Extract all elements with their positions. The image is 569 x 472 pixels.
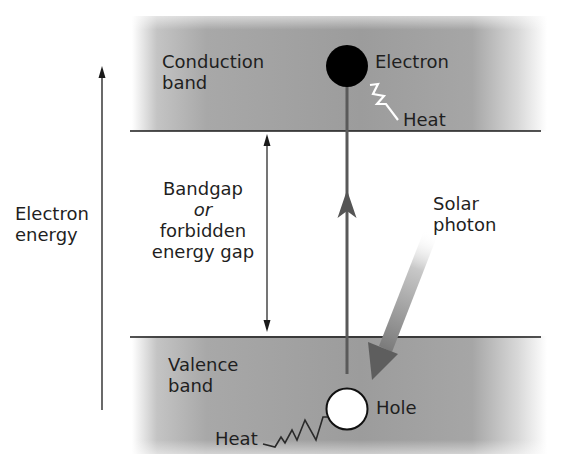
bandgap-label-line2: or [142, 199, 264, 220]
electron-label: Electron [375, 51, 449, 72]
heat-top-label: Heat [403, 109, 446, 130]
electron-icon [326, 45, 368, 87]
energy-axis-arrow-icon [99, 66, 106, 410]
hole-icon [327, 389, 368, 430]
bandgap-label-line1: Bandgap [142, 178, 264, 199]
valence-band-label: Valence band [168, 354, 238, 396]
bandgap-double-arrow-icon [264, 134, 271, 332]
bandgap-label-line4: energy gap [142, 241, 264, 262]
solar-photon-label-line2: photon [433, 214, 496, 235]
conduction-band-label-line2: band [162, 72, 264, 93]
bandgap-label-line3: forbidden [142, 220, 264, 241]
hole-label: Hole [376, 397, 417, 418]
valence-band-label-line1: Valence [168, 354, 238, 375]
solar-photon-label: Solar photon [433, 193, 496, 235]
bandgap-label: Bandgap or forbidden energy gap [142, 178, 264, 262]
electron-energy-label-line2: energy [15, 224, 89, 245]
solar-photon-label-line1: Solar [433, 193, 496, 214]
valence-band-label-line2: band [168, 375, 238, 396]
conduction-band-label: Conduction band [162, 51, 264, 93]
electron-energy-label-line1: Electron [15, 203, 89, 224]
heat-bottom-label: Heat [215, 428, 258, 449]
electron-energy-label: Electron energy [15, 203, 89, 245]
conduction-band-label-line1: Conduction [162, 51, 264, 72]
